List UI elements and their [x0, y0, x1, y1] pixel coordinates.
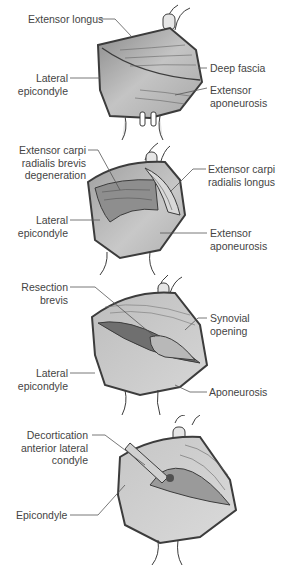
panel-d-decortication: Decortication anterior lateral condyle E… [0, 415, 287, 569]
panel-c-resection: Resection brevis Synovial opening Latera… [0, 275, 287, 415]
label-synovial-opening: Synovial opening [210, 312, 250, 337]
label-line: degeneration [4, 169, 86, 182]
label-deep-fascia: Deep fascia [210, 62, 265, 75]
label-line: brevis [8, 294, 68, 307]
label-line: Synovial [210, 312, 250, 325]
label-resection-brevis: Resection brevis [8, 281, 68, 306]
label-lateral-epicondyle: Lateral epicondyle [6, 214, 68, 239]
label-line: Lateral [6, 214, 68, 227]
label-line: Extensor carpi [4, 144, 86, 157]
label-line: anterior lateral [8, 442, 88, 455]
label-line: Lateral [6, 72, 68, 85]
label-line: aponeurosis [210, 240, 267, 253]
label-line: Extensor carpi [208, 163, 275, 176]
label-aponeurosis: Aponeurosis [209, 386, 267, 399]
label-line: Decortication [8, 429, 88, 442]
label-line: epicondyle [6, 85, 68, 98]
label-extensor-longus: Extensor longus [28, 13, 103, 26]
panel-b-ecrb-exposure: Extensor carpi radialis brevis degenerat… [0, 140, 287, 275]
label-line: radialis longus [208, 176, 275, 189]
label-decortication: Decortication anterior lateral condyle [8, 429, 88, 467]
label-ecrb-degeneration: Extensor carpi radialis brevis degenerat… [4, 144, 86, 182]
label-ecrl: Extensor carpi radialis longus [208, 163, 275, 188]
label-line: opening [210, 325, 250, 338]
label-lateral-epicondyle: Lateral epicondyle [6, 72, 68, 97]
label-line: epicondyle [6, 227, 68, 240]
label-line: radialis brevis [4, 157, 86, 170]
label-extensor-aponeurosis: Extensor aponeurosis [210, 227, 267, 252]
label-lateral-epicondyle: Lateral epicondyle [6, 367, 68, 392]
label-extensor-aponeurosis: Extensor aponeurosis [210, 84, 267, 109]
label-line: Resection [8, 281, 68, 294]
label-line: Lateral [6, 367, 68, 380]
label-line: aponeurosis [210, 97, 267, 110]
label-line: Extensor [210, 84, 267, 97]
label-line: condyle [8, 454, 88, 467]
panel-a-incision: Extensor longus Lateral epicondyle Deep … [0, 0, 287, 140]
label-epicondyle: Epicondyle [16, 509, 67, 522]
label-line: epicondyle [6, 380, 68, 393]
label-line: Extensor [210, 227, 267, 240]
